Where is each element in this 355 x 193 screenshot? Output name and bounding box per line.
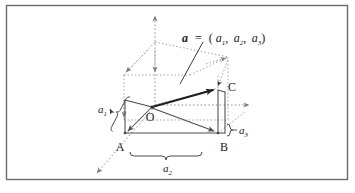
equation-open-paren: ( bbox=[209, 31, 213, 45]
point-label-b: B bbox=[220, 140, 228, 154]
origin-dot bbox=[151, 106, 154, 109]
equation-comma2: , bbox=[243, 31, 246, 45]
equation-close-paren: ) bbox=[261, 31, 265, 45]
equation-vector-symbol: a bbox=[182, 31, 188, 45]
caption-strip bbox=[120, 188, 235, 193]
equation-equals: = bbox=[195, 31, 202, 45]
point-a-dot bbox=[124, 132, 127, 135]
point-label-a: A bbox=[116, 140, 125, 154]
point-label-c: C bbox=[228, 80, 236, 94]
component-a1-sub: 1 bbox=[104, 110, 108, 118]
figure-root: a = ( a1, a2, a3) O A B C a1 a2 a3 bbox=[0, 0, 355, 193]
equation-comma1: , bbox=[225, 31, 228, 45]
component-a3-sub: 3 bbox=[244, 131, 249, 139]
vector-diagram-svg: a = ( a1, a2, a3) O A B C a1 a2 a3 bbox=[0, 0, 355, 193]
figure-frame bbox=[7, 6, 348, 180]
point-label-o: O bbox=[146, 110, 155, 124]
component-a2-sub: 2 bbox=[169, 169, 173, 177]
point-b-dot bbox=[217, 132, 220, 135]
